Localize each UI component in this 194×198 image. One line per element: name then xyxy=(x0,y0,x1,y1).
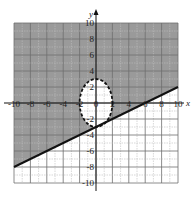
y-tick-label: 10 xyxy=(85,18,95,28)
x-tick-label: -10 xyxy=(8,99,20,109)
y-tick-label: -6 xyxy=(87,146,95,156)
x-tick-label: 0 xyxy=(94,99,99,109)
y-tick-label: -10 xyxy=(82,178,94,188)
y-tick-label: 8 xyxy=(90,34,95,44)
y-tick-label: 4 xyxy=(90,66,95,76)
inequality-graph: xy -10-8-6-4-20246810-10-8-6-4-2246810 xyxy=(0,0,194,198)
x-tick-label: -4 xyxy=(59,99,67,109)
y-tick-label: -8 xyxy=(87,162,95,172)
x-tick-label: -2 xyxy=(76,99,84,109)
y-tick-label: 6 xyxy=(90,50,95,60)
x-tick-label: 8 xyxy=(159,99,164,109)
y-tick-label: -4 xyxy=(87,130,95,140)
x-tick-label: 2 xyxy=(110,99,115,109)
y-axis-arrow-icon xyxy=(94,9,99,15)
y-tick-label: -2 xyxy=(87,114,95,124)
x-tick-label: 4 xyxy=(127,99,132,109)
x-tick-label: -8 xyxy=(27,99,35,109)
x-tick-label: -6 xyxy=(43,99,51,109)
x-tick-label: 6 xyxy=(143,99,148,109)
x-tick-label: 10 xyxy=(174,99,184,109)
x-axis-label: x xyxy=(185,98,190,108)
y-tick-label: 2 xyxy=(90,82,95,92)
